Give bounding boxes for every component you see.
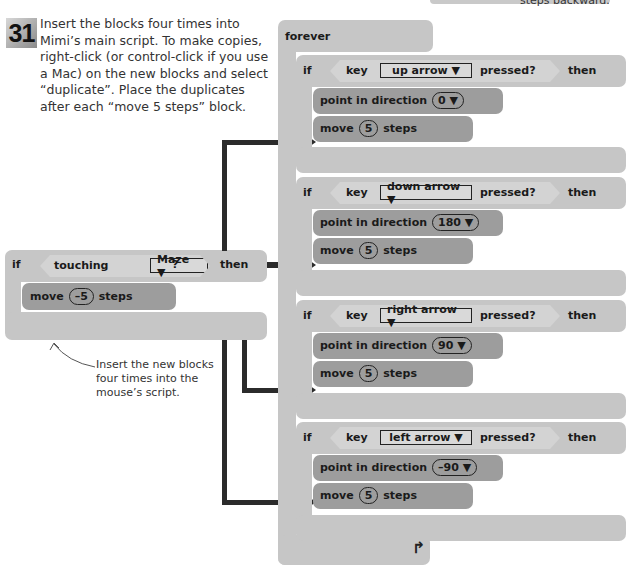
annotation-text: Insert the new blocks four times into th… — [96, 358, 226, 400]
key-left-condition[interactable]: key left arrow ▼ pressed? — [330, 427, 560, 449]
key-dropdown-down[interactable]: down arrow ▼ — [380, 185, 472, 200]
direction-dropdown-3[interactable]: 90 ▼ — [432, 337, 472, 354]
if-label: if — [12, 258, 21, 271]
key-dropdown-right[interactable]: right arrow ▼ — [380, 308, 472, 323]
step-number-badge: 31 — [6, 18, 37, 48]
steps-input-4[interactable]: 5 — [359, 487, 379, 504]
direction-dropdown-1[interactable]: 0 ▼ — [432, 92, 464, 109]
if-block-footer — [5, 312, 267, 340]
arrow-up-branch — [222, 140, 227, 251]
then-label: then — [220, 258, 248, 271]
steps-input[interactable]: –5 — [69, 288, 94, 305]
question-mark: ? — [172, 258, 178, 271]
step-instruction: Insert the blocks four times into Mimi’s… — [40, 16, 270, 115]
key-right-condition[interactable]: key right arrow ▼ pressed? — [330, 305, 560, 327]
key-dropdown-up[interactable]: up arrow ▼ — [380, 63, 472, 78]
maze-dropdown[interactable]: Maze ▼ — [150, 258, 208, 273]
forever-mouth — [278, 40, 296, 565]
annotation-curve-arrow — [48, 340, 98, 370]
direction-dropdown-2[interactable]: 180 ▼ — [432, 214, 479, 231]
steps-input-1[interactable]: 5 — [359, 120, 379, 137]
touching-condition[interactable]: touching Maze ▼ — [40, 255, 210, 277]
move-minus5-row: move –5 steps — [30, 288, 133, 305]
key-down-condition[interactable]: key down arrow ▼ pressed? — [330, 182, 560, 204]
arrow-right-branch — [242, 340, 247, 393]
key-dropdown-left[interactable]: left arrow ▼ — [380, 430, 472, 445]
steps-input-3[interactable]: 5 — [359, 365, 379, 382]
arrow-left-branch — [222, 340, 227, 505]
steps-input-2[interactable]: 5 — [359, 242, 379, 259]
direction-dropdown-4[interactable]: –90 ▼ — [432, 459, 477, 476]
key-up-condition[interactable]: key up arrow ▼ pressed? — [330, 60, 560, 82]
previous-caption-fragment: steps backward. — [520, 0, 610, 7]
